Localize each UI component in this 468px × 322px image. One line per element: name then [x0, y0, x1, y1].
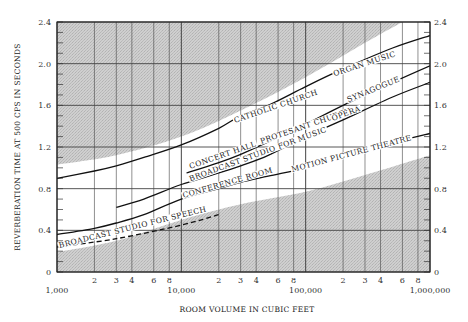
x-tick-minor: 8 [167, 276, 172, 285]
x-tick-major: 100,000 [289, 286, 322, 295]
y-tick-right: 2.4 [434, 18, 447, 27]
x-tick-minor: 8 [291, 276, 296, 285]
x-tick-minor: 8 [415, 276, 420, 285]
x-tick-major: 1,000,000 [410, 286, 451, 295]
x-tick-minor: 2 [92, 276, 97, 285]
y-tick-left: 0 [46, 268, 51, 277]
x-axis-ticks: 2346823468234681,00010,000100,0001,000,0… [46, 276, 451, 295]
y-tick-right: 1.2 [434, 143, 447, 152]
x-tick-minor: 2 [216, 276, 221, 285]
x-tick-minor: 3 [238, 276, 243, 285]
x-tick-minor: 3 [114, 276, 119, 285]
y-tick-left: 1.2 [38, 143, 51, 152]
y-tick-right: 0.8 [434, 185, 447, 194]
y-axis-title: REVERBERATION TIME AT 500 CPS IN SECONDS [13, 43, 22, 250]
y-tick-left: 1.6 [38, 101, 51, 110]
y-tick-right: 0.4 [434, 226, 447, 235]
reverberation-chart: CATHOLIC CHURCHORGAN MUSICCONCERT HALLPR… [0, 0, 468, 322]
y-tick-right: 0 [434, 268, 439, 277]
x-tick-minor: 4 [378, 276, 383, 285]
x-axis-title: ROOM VOLUME IN CUBIC FEET [179, 305, 314, 314]
x-tick-minor: 6 [400, 276, 405, 285]
y-tick-right: 2.0 [434, 60, 447, 69]
y-tick-right: 1.6 [434, 101, 447, 110]
y-tick-left: 2.0 [38, 60, 51, 69]
x-tick-minor: 4 [254, 276, 259, 285]
x-tick-minor: 3 [362, 276, 367, 285]
label-synagogue: SYNAGOGUE [346, 75, 402, 104]
y-tick-left: 2.4 [38, 18, 51, 27]
y-tick-left: 0.8 [38, 185, 51, 194]
x-tick-minor: 4 [129, 276, 134, 285]
x-tick-major: 1,000 [46, 286, 69, 295]
x-tick-minor: 2 [341, 276, 346, 285]
y-tick-left: 0.4 [38, 226, 51, 235]
x-tick-major: 10,000 [167, 286, 195, 295]
x-tick-minor: 6 [151, 276, 156, 285]
x-tick-minor: 6 [276, 276, 281, 285]
